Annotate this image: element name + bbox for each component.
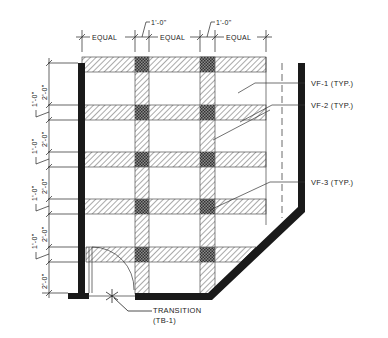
dim-equal-1: EQUAL — [92, 34, 117, 42]
dim-left-small-4: 1'-0" — [31, 233, 38, 249]
left-wall-foot — [68, 293, 89, 299]
band-row-4 — [82, 199, 266, 214]
callout-vf3: VF-3 (TYP.) — [311, 178, 354, 187]
dim-callout-1: 1'-0" — [151, 19, 167, 26]
horizontal-bands — [82, 57, 266, 262]
walls — [68, 63, 305, 300]
dim-left-large-5: 2'-0" — [41, 273, 48, 289]
dim-equal-3: EQUAL — [226, 34, 251, 42]
band-row-3 — [82, 152, 266, 167]
dim-equal-2: EQUAL — [160, 34, 185, 42]
dim-left-large-3: 2'-0" — [41, 178, 48, 194]
floor-plan-drawing: EQUAL EQUAL EQUAL 1'-0" 1'-0" 2'-0" 1'-0… — [0, 0, 388, 338]
left-wall — [78, 63, 85, 297]
dim-left-large-2: 2'-0" — [41, 131, 48, 147]
dim-left-small-2: 1'-0" — [31, 138, 38, 154]
callout-vf2: VF-2 (TYP.) — [311, 101, 354, 110]
dim-left-large-1: 2'-0" — [41, 84, 48, 100]
transition-label: TRANSITION — [153, 306, 201, 315]
dim-callout-2: 1'-0" — [216, 19, 232, 26]
dim-left-small-3: 1'-0" — [31, 185, 38, 201]
dim-left-small-1: 1'-0" — [31, 91, 38, 107]
transition-code: (TB-1) — [153, 316, 176, 325]
callout-leaders — [210, 83, 305, 210]
band-row-1 — [82, 57, 266, 72]
left-dimension-labels: 2'-0" 1'-0" 2'-0" 1'-0" 2'-0" 1'-0" 2'-0… — [31, 84, 48, 289]
callout-vf1: VF-1 (TYP.) — [311, 79, 354, 88]
dim-left-large-4: 2'-0" — [41, 226, 48, 242]
band-row-5 — [86, 247, 256, 262]
right-wall — [135, 63, 305, 300]
band-row-2 — [82, 105, 266, 120]
